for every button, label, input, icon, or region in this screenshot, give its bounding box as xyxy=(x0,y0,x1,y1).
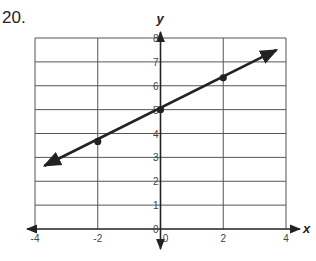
data-point xyxy=(157,106,164,113)
data-point xyxy=(220,74,227,81)
y-tick-label: 8 xyxy=(153,33,159,44)
x-tick-label: -2 xyxy=(93,233,102,244)
coordinate-graph: 012345678-4-2024xy xyxy=(0,0,316,261)
y-tick-label: 4 xyxy=(153,129,159,140)
y-tick-label: 1 xyxy=(153,200,159,211)
y-axis-label: y xyxy=(156,11,165,26)
x-tick-label: -4 xyxy=(31,233,40,244)
x-tick-label: 4 xyxy=(283,233,289,244)
y-tick-label: 7 xyxy=(153,57,159,68)
y-tick-label: 2 xyxy=(153,176,159,187)
y-tick-label: 3 xyxy=(153,152,159,163)
y-tick-label: 6 xyxy=(153,81,159,92)
data-point xyxy=(94,138,101,145)
x-axis-label: x xyxy=(302,221,311,236)
x-tick-label: 2 xyxy=(220,233,226,244)
x-tick-label: 0 xyxy=(163,233,169,244)
y-tick-label: 0 xyxy=(153,224,159,235)
